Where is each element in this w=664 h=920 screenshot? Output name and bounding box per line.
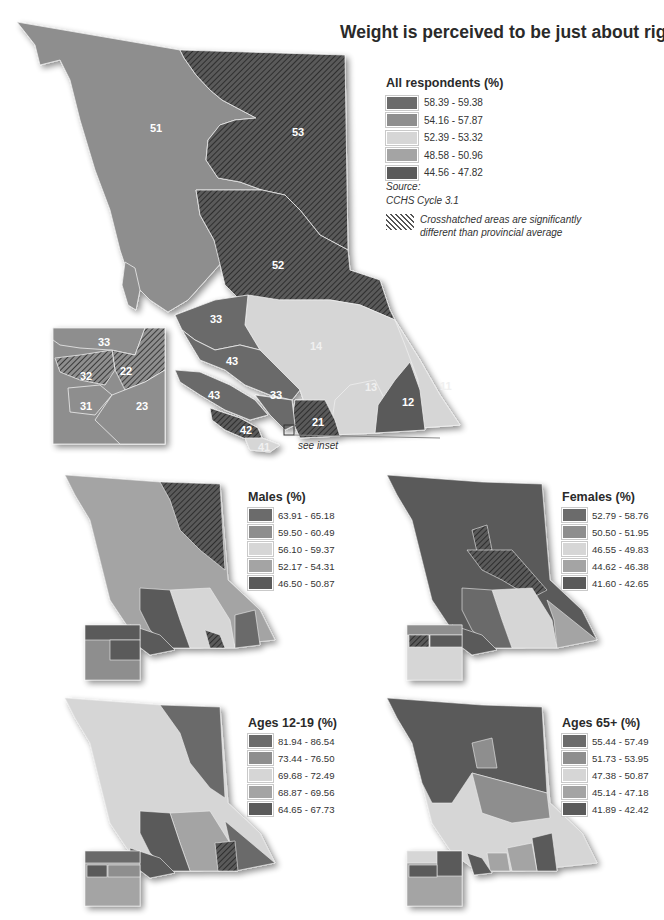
swatch-class-2 — [248, 751, 273, 765]
label-33: 33 — [210, 313, 222, 325]
inset-label-33: 33 — [98, 336, 110, 348]
swatch-class-3 — [248, 542, 273, 556]
label-13: 13 — [365, 381, 377, 393]
legend-title: Ages 65+ (%) — [562, 716, 649, 730]
legend-range: 41.89 - 42.42 — [592, 804, 649, 815]
legend-row: 41.89 - 42.42 — [562, 801, 649, 818]
legend-title: Ages 12-19 (%) — [248, 716, 337, 730]
legend-range: 64.65 - 67.73 — [278, 804, 335, 815]
legend-ages-12-19: Ages 12-19 (%) 81.94 - 86.54 73.44 - 76.… — [248, 716, 337, 818]
inset-label-32: 32 — [80, 370, 92, 382]
legend-range: 56.10 - 59.37 — [278, 544, 335, 555]
legend-row: 59.50 - 60.49 — [248, 524, 335, 541]
legend-row: 58.39 - 59.38 — [386, 94, 503, 111]
swatch-class-1 — [562, 508, 587, 522]
see-inset-label: see inset — [298, 440, 338, 451]
legend-range: 54.16 - 57.87 — [424, 115, 483, 126]
label-14: 14 — [310, 340, 323, 352]
swatch-class-2 — [562, 525, 587, 539]
swatch-class-3 — [386, 131, 418, 145]
legend-range: 46.55 - 49.83 — [592, 544, 649, 555]
swatch-class-3 — [248, 768, 273, 782]
legend-all-respondents: All respondents (%) 58.39 - 59.38 54.16 … — [386, 76, 503, 182]
inset-label-23: 23 — [136, 400, 148, 412]
legend-range: 52.17 - 54.31 — [278, 561, 335, 572]
swatch-class-5 — [248, 802, 273, 816]
legend-row: 44.62 - 46.38 — [562, 558, 649, 575]
legend-row: 55.44 - 57.49 — [562, 733, 649, 750]
legend-ages-65-plus: Ages 65+ (%) 55.44 - 57.49 51.73 - 53.95… — [562, 716, 649, 818]
legend-row: 50.50 - 51.95 — [562, 524, 649, 541]
inset-label-22: 22 — [120, 365, 132, 377]
label-52: 52 — [272, 259, 284, 271]
label-41: 41 — [258, 441, 270, 453]
label-51: 51 — [150, 122, 162, 134]
swatch-class-3 — [562, 768, 587, 782]
label-42: 42 — [240, 424, 252, 436]
legend-title: Males (%) — [248, 490, 335, 504]
crosshatch-note-line1: Crosshatched areas are significantly — [420, 213, 581, 226]
legend-range: 68.87 - 69.56 — [278, 787, 335, 798]
legend-range: 51.73 - 53.95 — [592, 753, 649, 764]
legend-title: All respondents (%) — [386, 76, 503, 90]
swatch-class-5 — [386, 166, 418, 180]
source-value: CCHS Cycle 3.1 — [386, 194, 459, 208]
legend-range: 55.44 - 57.49 — [592, 736, 649, 747]
legend-row: 52.39 - 53.32 — [386, 129, 503, 146]
legend-row: 48.58 - 50.96 — [386, 147, 503, 164]
source-label: Source: — [386, 180, 459, 194]
crosshatch-icon — [386, 214, 414, 230]
legend-row: 47.38 - 50.87 — [562, 767, 649, 784]
legend-range: 52.79 - 58.76 — [592, 510, 649, 521]
swatch-class-4 — [562, 559, 587, 573]
legend-range: 45.14 - 47.18 — [592, 787, 649, 798]
legend-males: Males (%) 63.91 - 65.18 59.50 - 60.49 56… — [248, 490, 335, 592]
legend-row: 54.16 - 57.87 — [386, 112, 503, 129]
label-11: 11 — [440, 380, 452, 392]
legend-title: Females (%) — [562, 490, 649, 504]
legend-range: 47.38 - 50.87 — [592, 770, 649, 781]
swatch-class-2 — [248, 525, 273, 539]
legend-row: 63.91 - 65.18 — [248, 507, 335, 524]
legend-range: 46.50 - 50.87 — [278, 578, 335, 589]
legend-range: 81.94 - 86.54 — [278, 736, 335, 747]
legend-row: 64.65 - 67.73 — [248, 801, 337, 818]
label-43a: 43 — [226, 355, 238, 367]
swatch-class-4 — [562, 785, 587, 799]
swatch-class-5 — [248, 576, 273, 590]
legend-range: 59.50 - 60.49 — [278, 527, 335, 538]
label-33b: 33 — [270, 389, 282, 401]
legend-range: 44.62 - 46.38 — [592, 561, 649, 572]
swatch-class-4 — [248, 559, 273, 573]
legend-row: 69.68 - 72.49 — [248, 767, 337, 784]
swatch-class-1 — [248, 508, 273, 522]
legend-range: 52.39 - 53.32 — [424, 132, 483, 143]
legend-females: Females (%) 52.79 - 58.76 50.50 - 51.95 … — [562, 490, 649, 592]
legend-row: 44.56 - 47.82 — [386, 164, 503, 181]
label-53: 53 — [292, 126, 304, 138]
swatch-class-2 — [386, 113, 418, 127]
swatch-class-4 — [248, 785, 273, 799]
label-43b: 43 — [208, 389, 220, 401]
legend-row: 81.94 - 86.54 — [248, 733, 337, 750]
swatch-class-3 — [562, 542, 587, 556]
legend-row: 73.44 - 76.50 — [248, 750, 337, 767]
crosshatch-note: Crosshatched areas are significantly dif… — [386, 213, 581, 239]
legend-row: 46.50 - 50.87 — [248, 575, 335, 592]
legend-range: 63.91 - 65.18 — [278, 510, 335, 521]
label-12: 12 — [402, 396, 414, 408]
legend-range: 41.60 - 42.65 — [592, 578, 649, 589]
legend-row: 56.10 - 59.37 — [248, 541, 335, 558]
label-21: 21 — [312, 416, 324, 428]
swatch-class-5 — [562, 576, 587, 590]
crosshatch-note-line2: different than provincial average — [420, 226, 581, 239]
legend-row: 45.14 - 47.18 — [562, 784, 649, 801]
swatch-class-1 — [248, 734, 273, 748]
legend-row: 41.60 - 42.65 — [562, 575, 649, 592]
inset-label-31: 31 — [80, 400, 92, 412]
swatch-class-4 — [386, 148, 418, 162]
source-note: Source: CCHS Cycle 3.1 — [386, 180, 459, 208]
swatch-class-5 — [562, 802, 587, 816]
legend-row: 52.79 - 58.76 — [562, 507, 649, 524]
swatch-class-2 — [562, 751, 587, 765]
